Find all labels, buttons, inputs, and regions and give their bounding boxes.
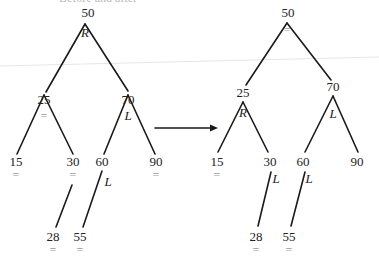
- left-balance-15: =: [13, 168, 20, 182]
- right-edge: [305, 96, 333, 152]
- left-node-55: 55: [74, 229, 87, 244]
- right-node-15: 15: [211, 154, 224, 169]
- left-balance-50: R: [80, 25, 89, 40]
- left-tree-before: 50R25=70L15=30=60L90=28=55=: [10, 5, 163, 257]
- left-balance-70: L: [123, 108, 131, 123]
- right-balance-60: L: [304, 171, 312, 186]
- left-node-90: 90: [150, 154, 163, 169]
- right-node-60: 60: [297, 154, 310, 169]
- left-node-15: 15: [10, 154, 23, 169]
- right-edge: [333, 96, 358, 152]
- right-tree-after: 50=25R70L15=30L60L9028=55=: [211, 5, 364, 257]
- left-node-60: 60: [96, 154, 109, 169]
- right-node-50: 50: [282, 5, 295, 20]
- left-balance-30: =: [70, 168, 77, 182]
- right-balance-30: L: [271, 171, 279, 186]
- left-edge: [56, 185, 72, 227]
- right-node-28: 28: [250, 229, 263, 244]
- right-balance-55: =: [286, 243, 293, 257]
- right-balance-25: R: [238, 105, 247, 120]
- right-balance-70: L: [328, 106, 336, 121]
- arrow-head-icon: [210, 125, 218, 132]
- right-node-70: 70: [327, 79, 340, 94]
- right-node-55: 55: [283, 229, 296, 244]
- scan-artifact-line: [0, 57, 379, 66]
- right-edge: [291, 172, 305, 226]
- right-balance-15: =: [214, 168, 221, 182]
- left-node-50: 50: [82, 5, 95, 20]
- left-node-28: 28: [47, 229, 60, 244]
- transform-arrow-icon: [155, 125, 218, 132]
- right-edge: [287, 23, 331, 80]
- left-node-70: 70: [122, 92, 135, 107]
- right-node-25: 25: [237, 85, 250, 100]
- left-balance-28: =: [50, 243, 57, 257]
- left-balance-25: =: [41, 109, 48, 123]
- right-node-90: 90: [351, 154, 364, 169]
- right-node-30: 30: [264, 154, 277, 169]
- right-edge: [258, 172, 271, 226]
- left-edge: [83, 171, 102, 227]
- left-node-30: 30: [67, 154, 80, 169]
- left-node-25: 25: [38, 92, 51, 107]
- left-edge: [85, 24, 128, 91]
- right-balance-50: =: [284, 23, 291, 37]
- avl-rotation-diagram: Before and after 50R25=70L15=30=60L90=28…: [0, 0, 379, 267]
- left-balance-90: =: [153, 168, 160, 182]
- cutoff-caption: Before and after: [59, 0, 137, 5]
- right-edge: [246, 23, 287, 85]
- left-balance-60: L: [103, 174, 111, 189]
- right-balance-28: =: [253, 243, 260, 257]
- left-balance-55: =: [77, 243, 84, 257]
- left-edge: [46, 24, 85, 92]
